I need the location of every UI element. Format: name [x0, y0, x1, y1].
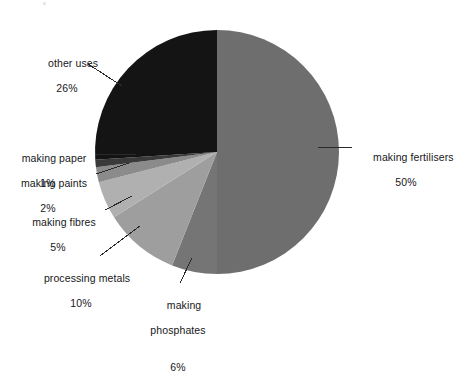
pie-label-making-phosphates-pct: 6% — [140, 361, 216, 374]
pie-label-other-uses: other uses 26% — [28, 44, 106, 119]
pie-label-making-fibres-name: making fibres — [32, 216, 96, 228]
pie-label-making-phosphates-name: making — [167, 299, 201, 311]
pie-label-making-fertilisers-name: making fertilisers — [373, 151, 454, 163]
pie-label-making-paints-name: making paints — [21, 177, 87, 189]
pie-label-making-paper-name: making paper — [22, 152, 87, 164]
pie-label-making-fibres-pct: 5% — [12, 241, 104, 254]
pie-slice-other-uses — [95, 30, 217, 160]
pie-slice-making-fertilisers — [217, 30, 339, 274]
pie-label-making-fertilisers: making fertilisers 50% — [361, 138, 451, 213]
pie-label-processing-metals-pct: 10% — [22, 297, 140, 310]
pie-label-making-fertilisers-pct: 50% — [361, 176, 451, 189]
pie-label-processing-metals: processing metals 10% — [22, 259, 140, 334]
pie-label-other-uses-pct: 26% — [28, 82, 106, 95]
pie-label-other-uses-name: other uses — [48, 57, 98, 69]
pie-label-making-phosphates-name2: phosphates — [140, 324, 216, 337]
pie-label-making-phosphates: making phosphates 6% — [140, 286, 216, 375]
pie-label-processing-metals-name: processing metals — [44, 272, 130, 284]
